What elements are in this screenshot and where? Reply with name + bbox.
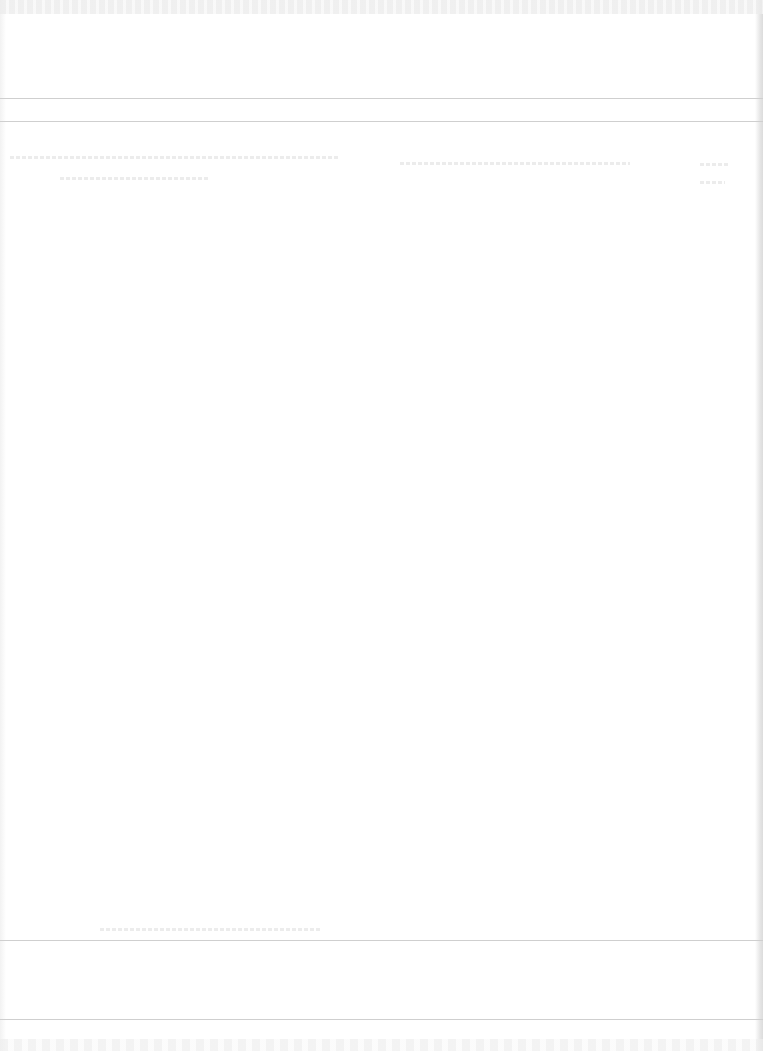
footer-rule-bottom xyxy=(0,1019,763,1020)
faded-text-line xyxy=(60,177,210,180)
top-edge-faded-text xyxy=(0,0,763,14)
faded-text-line xyxy=(700,163,730,166)
scanned-page xyxy=(0,0,763,1051)
bottom-edge-faded-text xyxy=(0,1039,763,1051)
footer-rule-top xyxy=(0,940,763,941)
header-rule-bottom xyxy=(0,121,763,122)
header-rule-top xyxy=(0,98,763,99)
faded-text-line xyxy=(100,928,320,931)
faded-text-line xyxy=(400,162,630,165)
faded-text-line xyxy=(10,156,340,159)
faded-text-line xyxy=(700,181,725,184)
